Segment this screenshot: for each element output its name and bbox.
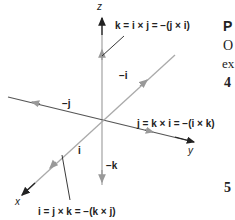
- coordinate-diagram: [0, 0, 235, 220]
- k-cross-product-label: k = i × j = −(j × i): [115, 20, 190, 31]
- x-axis-arrow: [22, 183, 35, 195]
- item-number-4: 4: [224, 75, 231, 91]
- k-leader-line: [102, 36, 124, 56]
- body-text-line-1: O: [223, 38, 233, 54]
- x-axis-label: x: [15, 196, 20, 207]
- i-leader-line: [62, 155, 70, 200]
- z-axis-label: z: [97, 1, 102, 12]
- neg-k-label: −k: [106, 160, 117, 171]
- i-cross-product-label: i = j × k = −(k × j): [38, 206, 116, 217]
- j-cross-product-label: j = k × i = −(i × k): [137, 118, 215, 129]
- y-axis-label: y: [188, 145, 193, 156]
- item-number-5: 5: [224, 180, 231, 196]
- body-text-line-2: ex: [222, 56, 234, 72]
- neg-j-label: −j: [62, 98, 71, 109]
- neg-i-label: −i: [119, 70, 128, 81]
- section-heading: P: [223, 18, 232, 34]
- neg-i-arrow: [140, 80, 147, 86]
- i-label: i: [78, 145, 81, 156]
- y-axis-arrow: [175, 137, 194, 142]
